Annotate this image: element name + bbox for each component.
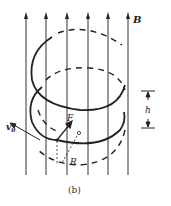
arrowhead-icon [24, 12, 28, 19]
center-marker [77, 131, 80, 134]
force-label: F [66, 113, 74, 123]
arrowhead-icon [65, 12, 69, 19]
arrowhead-icon [86, 12, 90, 19]
arrowhead-icon [106, 12, 110, 19]
figure-caption: (b) [68, 185, 81, 195]
field-arrowheads [24, 12, 130, 19]
field-label: B [132, 14, 141, 25]
velocity-subscript: 0 [11, 126, 16, 133]
helix-diagram: B h F R v0 (b) [0, 0, 171, 206]
radius-label: R [69, 157, 77, 167]
helix-front-solid [30, 37, 125, 143]
arrowhead-icon [44, 12, 48, 19]
force-vector [57, 121, 72, 140]
pitch-label: h [145, 105, 151, 115]
helix-back-dashed [38, 29, 125, 165]
arrowhead-icon [126, 12, 130, 19]
